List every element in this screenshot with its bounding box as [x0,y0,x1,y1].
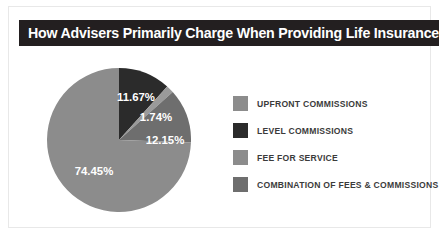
legend-item-label: LEVEL COMMISSIONS [257,126,353,136]
page-title: How Advisers Primarily Charge When Provi… [28,25,439,41]
chart-card: How Advisers Primarily Charge When Provi… [8,6,431,228]
chart-title-bar: How Advisers Primarily Charge When Provi… [19,20,439,46]
pie-slice-label-combination-of-fees-and-commissions: 12.15% [146,134,185,146]
pie-chart: 11.67% 1.74% 12.15% 74.45% [47,68,191,212]
legend-item-label: UPFRONT COMMISSIONS [257,99,368,109]
legend-swatch-icon [233,96,248,111]
legend-swatch-icon [233,177,248,192]
legend-item-label: FEE FOR SERVICE [257,153,338,163]
pie-slice-label-upfront-commissions: 74.45% [75,165,114,177]
legend-item-upfront-commissions[interactable]: UPFRONT COMMISSIONS [233,90,438,117]
legend-item-combination-of-fees-and-commissions[interactable]: COMBINATION OF FEES & COMMISSIONS [233,171,438,198]
legend-item-fee-for-service[interactable]: FEE FOR SERVICE [233,144,438,171]
chart-legend: UPFRONT COMMISSIONS LEVEL COMMISSIONS FE… [233,90,438,198]
legend-swatch-icon [233,123,248,138]
legend-item-label: COMBINATION OF FEES & COMMISSIONS [257,180,438,190]
pie-slice-label-fee-for-service: 1.74% [140,111,172,123]
legend-swatch-icon [233,150,248,165]
pie-slice-label-level-commissions: 11.67% [117,91,155,103]
pie-chart-svg: 11.67% 1.74% 12.15% 74.45% [47,68,191,212]
legend-item-level-commissions[interactable]: LEVEL COMMISSIONS [233,117,438,144]
